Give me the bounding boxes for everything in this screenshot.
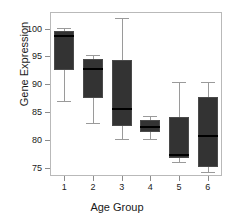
median-line [198,135,218,137]
whisker-upper [208,82,209,96]
whisker-cap-upper [201,82,215,83]
box-iqr[interactable] [198,97,218,167]
whisker-cap-lower [201,172,215,173]
box-plot-item[interactable] [0,0,234,216]
x-axis-label: Age Group [0,201,234,213]
boxplot-figure: Gene Expression 7580859095100 123456 Age… [0,0,234,216]
